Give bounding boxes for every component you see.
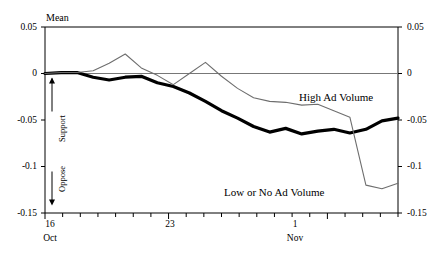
direction-arrows xyxy=(49,78,55,206)
series-line-low-or-no-ad-volume xyxy=(45,54,398,189)
chart-series-group xyxy=(45,54,398,189)
series-label-low-or-no-ad-volume: Low or No Ad Volume xyxy=(224,187,324,198)
x-tick-label-oct: Oct xyxy=(38,234,62,244)
y-tick-label-right--0.15: -0.15 xyxy=(407,209,427,219)
x-tick-label-1: 1 xyxy=(283,220,307,230)
y-tick-label-right-0: 0 xyxy=(407,69,412,79)
y-tick-label-right--0.1: -0.1 xyxy=(407,162,422,172)
x-tick-label-nov: Nov xyxy=(283,234,307,244)
y-tick-label--0.1: -0.1 xyxy=(3,162,37,172)
support-direction-label: Support xyxy=(58,115,67,142)
series-label-high-ad-volume: High Ad Volume xyxy=(299,92,373,103)
oppose-direction-label: Oppose xyxy=(58,166,67,192)
x-tick-label-23: 23 xyxy=(158,220,182,230)
chart-tick-marks xyxy=(41,27,402,219)
y-tick-label-0.05: 0.05 xyxy=(3,23,37,33)
y-tick-label--0.05: -0.05 xyxy=(3,116,37,126)
chart-figure: Mean 0.05 0 -0.05 -0.1 -0.15 0.05 0 -0.0… xyxy=(0,0,442,257)
y-tick-label-0: 0 xyxy=(3,69,37,79)
x-tick-label-16: 16 xyxy=(38,220,62,230)
y-tick-label--0.15: -0.15 xyxy=(3,209,37,219)
y-tick-label-right-0.05: 0.05 xyxy=(407,23,424,33)
series-line-high-ad-volume xyxy=(45,73,398,134)
chart-axes xyxy=(45,27,398,213)
y-axis-title: Mean xyxy=(46,13,69,23)
y-tick-label-right--0.05: -0.05 xyxy=(407,116,427,126)
